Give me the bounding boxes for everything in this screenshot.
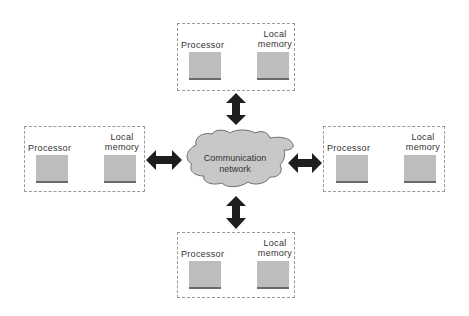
memory-block xyxy=(257,261,289,289)
memory-label: Local memory xyxy=(256,238,294,258)
processor-label: Processor xyxy=(28,143,71,153)
memory-label-line2: memory xyxy=(402,142,444,152)
processor-block xyxy=(336,155,368,183)
node-bottom: Processor Local memory xyxy=(177,232,295,298)
memory-label-line1: Local xyxy=(256,29,294,39)
memory-label-line1: Local xyxy=(101,132,143,142)
memory-label-line2: memory xyxy=(256,39,294,49)
processor-label: Processor xyxy=(327,143,370,153)
node-left: Processor Local memory xyxy=(24,126,145,192)
node-top: Processor Local memory xyxy=(177,23,295,91)
processor-label: Processor xyxy=(181,249,224,259)
network-label: Communication network xyxy=(195,153,275,175)
memory-label-line2: memory xyxy=(256,248,294,258)
top-link-arrow xyxy=(226,93,246,125)
processor-label: Processor xyxy=(181,40,224,50)
network-label-line2: network xyxy=(195,164,275,175)
memory-label: Local memory xyxy=(101,132,143,152)
memory-label: Local memory xyxy=(256,29,294,49)
memory-label-line1: Local xyxy=(402,132,444,142)
memory-block xyxy=(257,52,289,80)
processor-block xyxy=(189,52,221,80)
memory-label-line2: memory xyxy=(101,142,143,152)
memory-label: Local memory xyxy=(402,132,444,152)
memory-label-line1: Local xyxy=(256,238,294,248)
memory-block xyxy=(404,155,436,183)
left-link-arrow xyxy=(146,150,182,170)
processor-block xyxy=(189,261,221,289)
bottom-link-arrow xyxy=(226,196,246,229)
processor-block xyxy=(36,155,68,183)
right-link-arrow xyxy=(288,153,322,173)
network-label-line1: Communication xyxy=(195,153,275,164)
node-right: Processor Local memory xyxy=(323,126,445,192)
memory-block xyxy=(104,155,136,183)
